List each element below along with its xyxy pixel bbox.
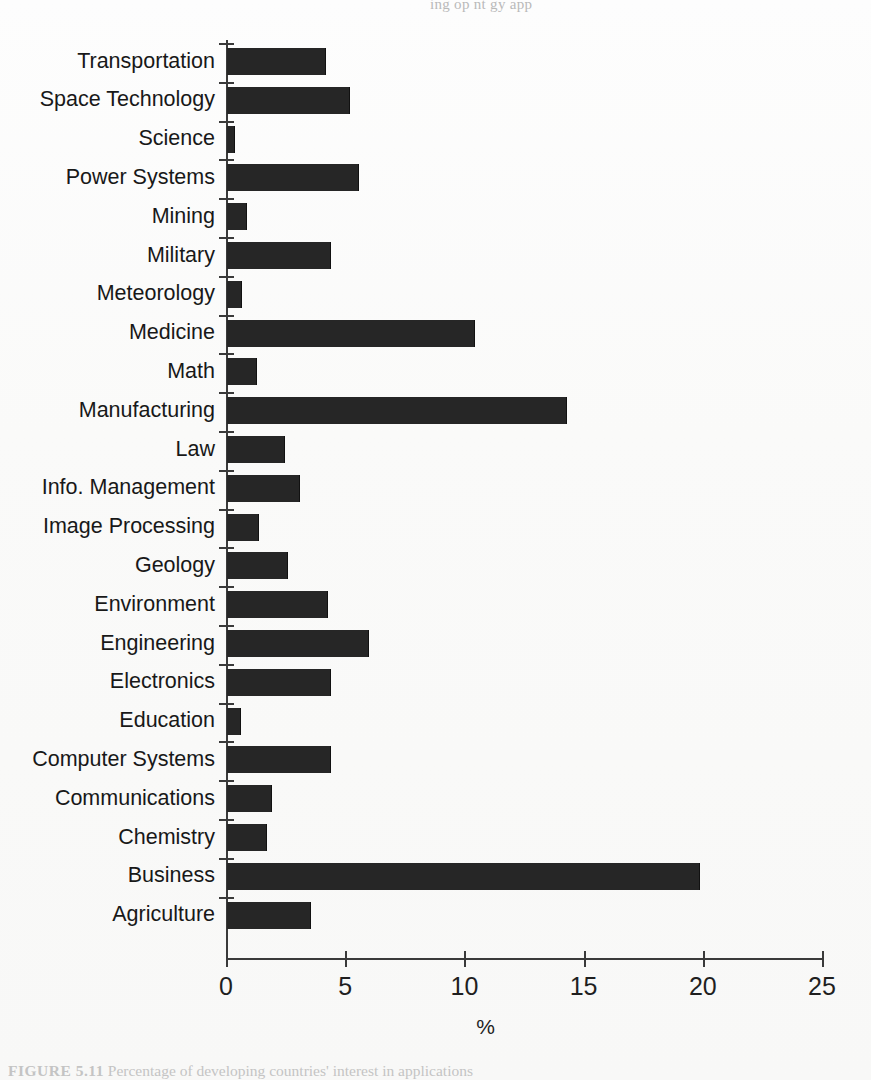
x-axis-tick <box>822 951 824 967</box>
x-axis-tick-label: 10 <box>434 972 494 1001</box>
bar-row <box>227 276 823 315</box>
bar-row <box>227 664 823 703</box>
bar <box>227 48 326 75</box>
y-axis-label: Mining <box>0 206 215 228</box>
bar-row <box>227 625 823 664</box>
y-axis-label: Transportation <box>0 51 215 73</box>
bar <box>227 87 350 114</box>
bar <box>227 514 259 541</box>
x-axis-tick <box>464 951 466 967</box>
bar-row <box>227 198 823 237</box>
y-axis-label: Military <box>0 245 215 267</box>
y-axis-label: Meteorology <box>0 283 215 305</box>
bar <box>227 320 475 347</box>
plot-area <box>227 43 823 958</box>
y-axis-label: Engineering <box>0 633 215 655</box>
figure-caption-label: FIGURE 5.11 <box>8 1062 104 1079</box>
bar-chart: TransportationSpace TechnologySciencePow… <box>0 0 871 1000</box>
bar-row <box>227 431 823 470</box>
y-axis-label: Space Technology <box>0 89 215 111</box>
y-axis-label: Computer Systems <box>0 749 215 771</box>
bar <box>227 475 300 502</box>
bar <box>227 281 242 308</box>
y-axis-label: Info. Management <box>0 477 215 499</box>
bar <box>227 126 235 153</box>
x-axis-title-text: % <box>476 1015 495 1038</box>
bar-row <box>227 237 823 276</box>
bar <box>227 824 267 851</box>
bar-row <box>227 547 823 586</box>
x-axis-tick <box>584 951 586 967</box>
bar <box>227 863 700 890</box>
bar-row <box>227 741 823 780</box>
bar-row <box>227 159 823 198</box>
bar-row <box>227 82 823 121</box>
y-axis-label: Math <box>0 361 215 383</box>
bar-row <box>227 315 823 354</box>
bar-row <box>227 858 823 897</box>
bar-row <box>227 43 823 82</box>
bar-row <box>227 121 823 160</box>
bar <box>227 785 272 812</box>
bar <box>227 358 257 385</box>
bar-row <box>227 392 823 431</box>
bar-row <box>227 780 823 819</box>
x-axis-tick <box>345 951 347 967</box>
y-axis-label: Image Processing <box>0 516 215 538</box>
x-axis-tick-label: 5 <box>315 972 375 1001</box>
y-axis-label: Electronics <box>0 671 215 693</box>
bar <box>227 591 328 618</box>
bar <box>227 708 241 735</box>
y-axis-label: Environment <box>0 594 215 616</box>
bar-row <box>227 586 823 625</box>
bar <box>227 436 285 463</box>
bar <box>227 164 359 191</box>
bar <box>227 669 331 696</box>
x-axis-title: % <box>0 1015 871 1039</box>
bar <box>227 203 247 230</box>
bar-row <box>227 509 823 548</box>
bar <box>227 242 331 269</box>
bar <box>227 902 311 929</box>
bar-row <box>227 819 823 858</box>
y-axis-label: Business <box>0 865 215 887</box>
bar-row <box>227 897 823 936</box>
bar-row <box>227 470 823 509</box>
y-axis-label: Geology <box>0 555 215 577</box>
bar <box>227 552 288 579</box>
bar-row <box>227 703 823 742</box>
y-axis-category-labels: TransportationSpace TechnologySciencePow… <box>0 43 215 958</box>
bar <box>227 630 369 657</box>
x-axis-tick <box>703 951 705 967</box>
y-axis-label: Agriculture <box>0 904 215 926</box>
x-axis-tick-label: 15 <box>554 972 614 1001</box>
bar-row <box>227 353 823 392</box>
y-axis-label: Medicine <box>0 322 215 344</box>
y-axis-label: Chemistry <box>0 827 215 849</box>
x-axis-tick-label: 20 <box>673 972 733 1001</box>
figure-caption: FIGURE 5.11 Percentage of developing cou… <box>8 1062 868 1080</box>
y-axis-label: Law <box>0 439 215 461</box>
y-axis-label: Education <box>0 710 215 732</box>
x-axis-tick <box>226 951 228 967</box>
bar <box>227 397 567 424</box>
y-axis-label: Manufacturing <box>0 400 215 422</box>
x-axis-tick-label: 25 <box>792 972 852 1001</box>
y-axis-label: Science <box>0 128 215 150</box>
x-axis-tick-label: 0 <box>196 972 256 1001</box>
y-axis-label: Communications <box>0 788 215 810</box>
y-axis-label: Power Systems <box>0 167 215 189</box>
figure-caption-text: Percentage of developing countries' inte… <box>108 1062 473 1079</box>
bar <box>227 746 331 773</box>
x-axis-line <box>226 958 823 960</box>
